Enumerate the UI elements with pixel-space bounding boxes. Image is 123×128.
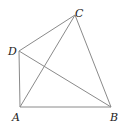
segment-da <box>19 51 20 107</box>
segment-cd <box>19 15 75 51</box>
label-b: B <box>109 111 118 124</box>
segment-ac <box>20 15 75 107</box>
label-c: C <box>75 7 84 20</box>
label-d: D <box>7 45 17 58</box>
segment-bc <box>75 15 111 107</box>
segment-db <box>19 51 111 107</box>
geometry-diagram: A B C D <box>0 0 123 128</box>
label-a: A <box>11 111 20 124</box>
